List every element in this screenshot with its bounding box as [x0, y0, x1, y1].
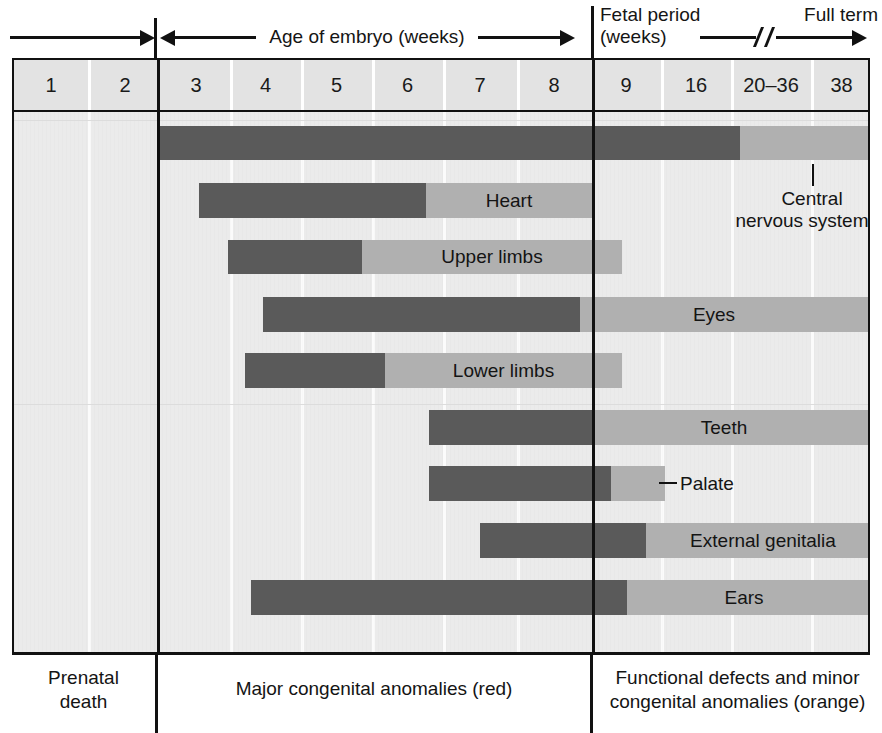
column-separator	[230, 60, 233, 110]
week-cell: 2	[88, 60, 162, 110]
week-cell: 3	[162, 60, 230, 110]
embryo-axis-label: Age of embryo (weeks)	[256, 26, 478, 47]
week-label: 38	[830, 74, 852, 97]
bar-label-ears: Ears	[664, 580, 824, 615]
bar-label-eyes: Eyes	[624, 297, 804, 332]
plot-bottom-rule	[12, 652, 870, 655]
week-label: 9	[620, 74, 631, 97]
bar-row-upper-limbs: Upper limbs	[14, 240, 868, 274]
week-label: 20–36	[743, 74, 799, 97]
caption-line: Functional defects and minor	[593, 666, 882, 690]
bar-dark-segment	[157, 126, 740, 160]
band-hairline	[14, 404, 868, 405]
palate-leader-dash	[659, 482, 677, 484]
full-term-label: Full term	[760, 4, 878, 25]
prenatal-embryo-divider-top	[154, 18, 157, 58]
fetal-arrow-line-left	[700, 36, 756, 39]
bar-row-lower-limbs: Lower limbs	[14, 353, 868, 388]
bar-row-ears: Ears	[14, 580, 868, 615]
bar-row-palate: Palate	[14, 466, 868, 501]
week-cell: 16	[661, 60, 731, 110]
bar-row-external-genitalia: External genitalia	[14, 523, 868, 558]
bar-label-palate: Palate	[680, 466, 820, 501]
embryo-arrow-line-left	[174, 36, 256, 39]
week-cell: 1	[14, 60, 88, 110]
caption-line: Major congenital anomalies (red)	[158, 677, 590, 701]
embryo-arrow-head-right	[560, 30, 575, 46]
bar-dark-segment	[480, 523, 646, 558]
bar-row-teeth: Teeth	[14, 410, 868, 445]
cns-leader-line	[812, 164, 814, 186]
bar-label-lower-limbs: Lower limbs	[385, 353, 622, 388]
week-cell: 5	[301, 60, 372, 110]
embryo-arrow-line-right	[478, 36, 560, 39]
week-label: 8	[548, 74, 559, 97]
fetal-arrow-head	[852, 30, 867, 46]
column-separator	[517, 60, 520, 110]
embryo-arrow-head-left	[160, 30, 175, 46]
column-separator	[661, 60, 664, 110]
fetal-period-label-line1: Fetal period	[600, 4, 728, 25]
cns-callout-line1: Central	[732, 188, 870, 210]
caption-line: Prenatal	[12, 666, 155, 690]
axis-break-mark-2	[764, 27, 775, 47]
bar-dark-segment	[228, 240, 362, 274]
week-label: 2	[119, 74, 130, 97]
bar-light-segment	[611, 466, 665, 501]
caption-prenatal-death: Prenatal death	[12, 666, 155, 714]
week-cell: 6	[372, 60, 443, 110]
bar-dark-segment	[429, 410, 592, 445]
week-label: 7	[474, 74, 485, 97]
bar-label-teeth: Teeth	[634, 410, 814, 445]
week-cell: 4	[230, 60, 301, 110]
column-separator	[88, 60, 91, 110]
caption-major-anomalies: Major congenital anomalies (red)	[158, 677, 590, 701]
bar-light-segment	[740, 126, 870, 160]
column-separator	[443, 60, 446, 110]
prenatal-embryo-divider-header	[157, 58, 160, 112]
week-label: 16	[685, 74, 707, 97]
figure-critical-periods: Age of embryo (weeks) Fetal period (week…	[0, 0, 882, 733]
prenatal-arrow-head	[140, 30, 155, 46]
column-separator	[301, 60, 304, 110]
caption-band: Prenatal death Major congenital anomalie…	[12, 652, 870, 733]
week-label: 6	[402, 74, 413, 97]
bar-dark-segment	[245, 353, 385, 388]
column-separator	[811, 60, 814, 110]
caption-functional-defects: Functional defects and minor congenital …	[593, 666, 882, 714]
bar-dark-segment	[263, 297, 580, 332]
caption-line: death	[12, 690, 155, 714]
column-separator	[372, 60, 375, 110]
chart-plot-area: Central nervous system Heart Upper limbs…	[12, 112, 870, 652]
bar-label-external-genitalia: External genitalia	[654, 523, 870, 558]
week-label: 5	[331, 74, 342, 97]
embryo-fetal-divider-top	[591, 6, 594, 58]
bar-dark-segment	[429, 466, 611, 501]
axis-band: Age of embryo (weeks) Fetal period (week…	[0, 0, 882, 58]
bar-label-heart: Heart	[426, 183, 592, 218]
embryo-fetal-divider-header	[592, 58, 595, 112]
week-label: 1	[45, 74, 56, 97]
bar-dark-segment	[199, 183, 426, 218]
week-label: 3	[190, 74, 201, 97]
bar-row-eyes: Eyes	[14, 297, 868, 332]
embryo-fetal-divider	[592, 112, 595, 652]
week-label: 4	[260, 74, 271, 97]
bar-row-central-nervous-system	[14, 126, 868, 160]
caption-line: congenital anomalies (orange)	[593, 690, 882, 714]
week-cell: 9	[591, 60, 661, 110]
prenatal-arrow-line	[10, 36, 143, 39]
fetal-arrow-line-right	[776, 36, 852, 39]
week-cell: 38	[811, 60, 872, 110]
prenatal-embryo-divider	[157, 112, 160, 652]
week-cell: 7	[443, 60, 517, 110]
band-hairline	[14, 120, 868, 121]
bar-label-upper-limbs: Upper limbs	[362, 240, 622, 274]
fetal-period-label-line2: (weeks)	[600, 26, 700, 47]
cns-callout-line2: nervous system	[712, 210, 870, 232]
column-separator	[731, 60, 734, 110]
week-header-strip: 1 2 3 4 5 6 7 8 9	[12, 58, 870, 112]
week-cell: 20–36	[731, 60, 811, 110]
week-cell: 8	[517, 60, 591, 110]
bar-dark-segment	[251, 580, 627, 615]
